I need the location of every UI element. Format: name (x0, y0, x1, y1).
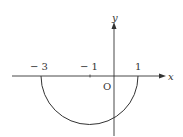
tick-label-neg3: − 3 (30, 61, 48, 72)
tick-label-1: 1 (135, 61, 141, 72)
semicircle-curve (41, 76, 138, 125)
x-axis-label: x (168, 71, 174, 82)
tick-label-neg1: − 1 (80, 61, 98, 72)
y-axis-label: y (111, 12, 118, 23)
coordinate-diagram: x y O − 3 − 1 1 (0, 0, 183, 137)
y-axis-arrow-icon (112, 22, 117, 29)
origin-label: O (103, 81, 111, 92)
x-axis-arrow-icon (159, 74, 166, 79)
